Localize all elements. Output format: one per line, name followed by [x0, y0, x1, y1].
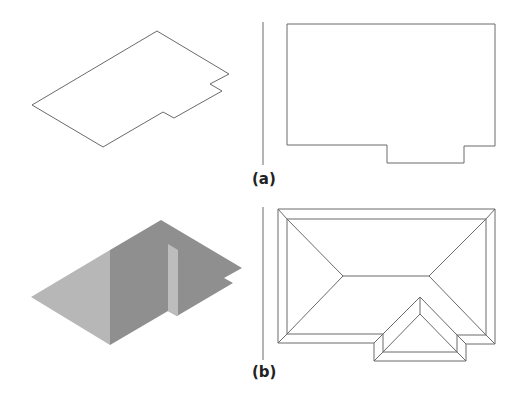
dormer-wall — [168, 244, 178, 316]
hip-line — [429, 276, 486, 335]
dormer-outer-hip — [383, 297, 420, 334]
figure-canvas — [0, 0, 517, 408]
hip-line — [287, 276, 343, 334]
panel-a-isometric-outline — [32, 31, 229, 147]
dormer-outer-hip — [420, 297, 457, 335]
dormer-inner-hip — [420, 314, 457, 352]
hip-line — [429, 219, 486, 276]
panel-b-roof-plan — [278, 209, 495, 361]
outer-eave — [278, 209, 495, 361]
panel-a-label: (a) — [252, 170, 276, 188]
hip-line — [287, 219, 343, 276]
inner-wall — [287, 219, 486, 352]
dormer-inner-hip — [383, 314, 420, 352]
panel-b-label: (b) — [252, 363, 276, 381]
roof-light-face — [31, 250, 110, 345]
panel-b-isometric-shaded-roof — [31, 220, 242, 345]
panel-a-plan-outline — [287, 24, 495, 163]
